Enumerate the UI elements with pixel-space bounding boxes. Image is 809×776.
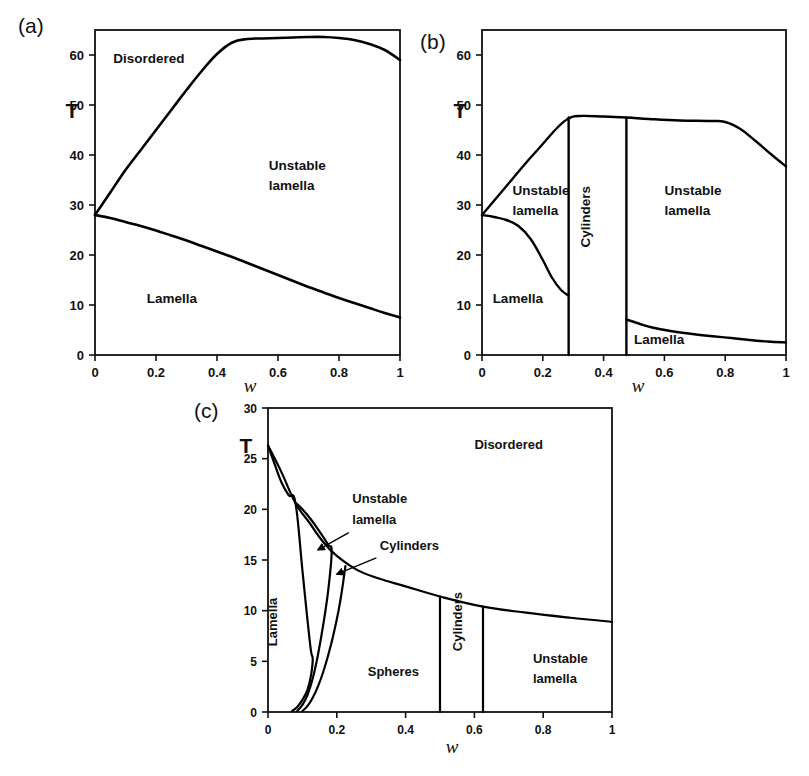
panel-c-tag: (c) (194, 399, 219, 423)
x-tick-label: 0.6 (655, 365, 673, 380)
x-tick-label: 0.8 (535, 723, 552, 737)
region-label: Disordered (474, 437, 543, 452)
x-tick-label: 0.2 (147, 365, 165, 380)
y-tick-label: 0 (464, 348, 471, 363)
region-label: lamella (269, 178, 315, 193)
phase-boundary-curve (482, 215, 569, 296)
region-label: Cylinders (450, 592, 465, 651)
y-tick-label: 40 (457, 148, 471, 163)
region-label: Unstable (533, 651, 588, 666)
panel-b: (b) 00.20.40.60.810102030405060TwUnstabl… (410, 0, 809, 400)
panel-a-plot: 00.20.40.60.810102030405060TwDisorderedU… (0, 0, 420, 400)
y-tick-label: 15 (244, 554, 258, 568)
panel-b-plot: 00.20.40.60.810102030405060TwUnstablelam… (410, 0, 809, 400)
y-axis-label: T (240, 434, 253, 457)
panel-a: (a) 00.20.40.60.810102030405060TwDisorde… (0, 0, 420, 400)
region-label: lamella (352, 512, 397, 527)
y-tick-label: 5 (250, 655, 257, 669)
x-axis-label: w (244, 375, 257, 396)
y-tick-label: 20 (457, 248, 471, 263)
phase-boundary-curve (95, 215, 400, 318)
x-tick-label: 0 (478, 365, 485, 380)
phase-diagram-figure: (a) 00.20.40.60.810102030405060TwDisorde… (0, 0, 809, 776)
x-tick-label: 0.6 (466, 723, 483, 737)
x-tick-label: 1 (396, 365, 403, 380)
y-tick-label: 10 (457, 298, 471, 313)
x-tick-label: 0 (91, 365, 98, 380)
region-label: Cylinders (380, 538, 439, 553)
panel-b-tag: (b) (420, 30, 446, 54)
region-label: Lamella (493, 291, 544, 306)
y-axis-label: T (454, 99, 467, 122)
x-tick-label: 0 (265, 723, 272, 737)
x-tick-label: 1 (609, 723, 616, 737)
x-axis-label: w (632, 375, 645, 396)
region-label: Spheres (368, 664, 419, 679)
x-tick-label: 0.8 (716, 365, 734, 380)
region-label: Lamella (265, 597, 280, 646)
region-label: Lamella (634, 332, 685, 347)
x-tick-label: 0.4 (595, 365, 614, 380)
panel-c: (c) 00.20.40.60.81051015202530TwDisorder… (190, 395, 630, 776)
y-axis-label: T (66, 99, 79, 122)
x-tick-label: 0.4 (397, 723, 414, 737)
y-tick-label: 0 (250, 706, 257, 720)
region-label: Unstable (269, 158, 327, 173)
x-tick-label: 0.2 (534, 365, 552, 380)
panel-c-plot: 00.20.40.60.81051015202530TwDisorderedUn… (190, 395, 630, 776)
region-label: lamella (533, 671, 578, 686)
x-tick-label: 0.2 (328, 723, 345, 737)
y-tick-label: 30 (70, 198, 84, 213)
x-tick-label: 0.6 (269, 365, 287, 380)
phase-boundary-curve (296, 503, 331, 711)
panel-a-tag: (a) (18, 14, 44, 38)
phase-boundary-curve (482, 116, 786, 215)
x-axis-label: w (446, 736, 459, 757)
y-tick-label: 60 (70, 48, 84, 63)
region-label: Lamella (147, 291, 198, 306)
phase-boundary-curve (268, 445, 612, 621)
region-label: lamella (512, 203, 558, 218)
region-label: Cylinders (578, 186, 593, 248)
region-label: Unstable (664, 183, 722, 198)
region-label: Unstable (352, 491, 407, 506)
region-label: lamella (664, 203, 710, 218)
plot-frame (95, 30, 400, 355)
y-tick-label: 20 (244, 503, 258, 517)
region-label: Unstable (512, 183, 570, 198)
region-label: Disordered (113, 51, 184, 66)
x-tick-label: 0.8 (330, 365, 348, 380)
y-tick-label: 10 (244, 604, 258, 618)
y-tick-label: 30 (244, 402, 258, 416)
y-tick-label: 10 (70, 298, 84, 313)
y-tick-label: 60 (457, 48, 471, 63)
y-tick-label: 20 (70, 248, 84, 263)
y-tick-label: 40 (70, 148, 84, 163)
y-tick-label: 30 (457, 198, 471, 213)
y-tick-label: 0 (77, 348, 84, 363)
x-tick-label: 1 (782, 365, 789, 380)
x-tick-label: 0.4 (208, 365, 227, 380)
phase-boundary-curve (268, 445, 313, 711)
